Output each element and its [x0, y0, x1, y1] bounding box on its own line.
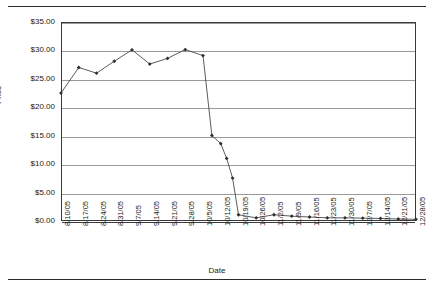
x-axis-tick-label: 8/24/05 [100, 201, 108, 226]
gridline [62, 222, 415, 223]
x-axis-tick-label: 10/19/05 [242, 197, 250, 226]
x-axis-tick-label: 11/16/05 [313, 197, 321, 226]
y-axis-tick-label: $25.00 [3, 75, 55, 83]
data-point-marker [166, 56, 170, 60]
x-axis-tick-label: 11/30/05 [348, 197, 356, 226]
y-axis-tick-label: $10.00 [3, 160, 55, 168]
data-point-marker [183, 48, 187, 52]
x-axis-tick-label: 8/17/05 [82, 201, 90, 226]
chart-page: Price $35.00$30.00$25.00$20.00$15.00$10.… [0, 0, 434, 288]
x-axis-tick-label: 11/23/05 [330, 197, 338, 226]
x-axis-title: Date [0, 266, 434, 275]
y-axis-title: Price [0, 86, 3, 104]
x-axis-tick-label: 10/5/05 [206, 201, 214, 226]
x-axis-tick-label: 11/9/05 [295, 202, 303, 226]
x-axis-tick-label: 8/10/05 [64, 201, 72, 226]
x-axis-tick-label: 9/7/05 [135, 205, 143, 226]
x-axis-tick-label: 9/28/05 [188, 201, 196, 226]
data-point-marker [225, 157, 229, 161]
x-axis-tick-label: 11/2/05 [277, 202, 285, 226]
data-point-marker [308, 215, 312, 219]
data-point-marker [379, 217, 383, 221]
data-point-marker [231, 176, 235, 180]
y-axis-tick-label: $20.00 [3, 103, 55, 111]
page-rule-bottom [8, 279, 426, 280]
y-axis-tick-label: $35.00 [3, 18, 55, 26]
x-axis-tick-label: 12/21/05 [401, 197, 409, 226]
x-axis-tick-label: 12/28/05 [419, 197, 427, 226]
x-axis-tick-label: 12/14/05 [384, 197, 392, 226]
x-axis-tick-label: 10/12/05 [224, 197, 232, 226]
data-point-marker [237, 213, 241, 217]
x-axis-tick-label: 10/26/05 [259, 197, 267, 226]
y-axis-tick-label: $15.00 [3, 132, 55, 140]
series-markers [59, 48, 418, 222]
x-axis-tick-label: 12/7/05 [366, 201, 374, 226]
x-axis-tick-label: 9/21/05 [171, 201, 179, 226]
x-axis-tick-label: 8/31/05 [117, 201, 125, 226]
y-axis-tick-label: $30.00 [3, 46, 55, 54]
price-line-series [61, 22, 416, 221]
series-polyline [61, 50, 416, 220]
y-axis-tick-label: $5.00 [3, 189, 55, 197]
y-axis-tick-label: $0.00 [3, 217, 55, 225]
data-point-marker [201, 54, 205, 58]
page-rule-top [8, 6, 426, 7]
x-axis-tick-label: 9/14/05 [153, 201, 161, 226]
